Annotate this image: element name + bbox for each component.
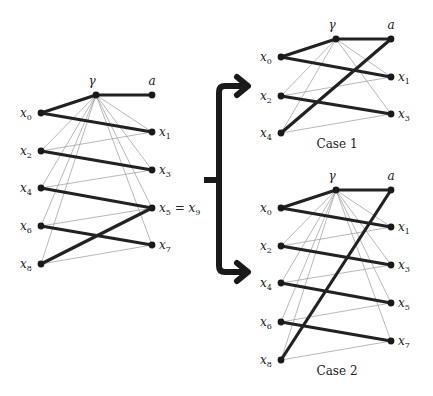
node-label-x8: x8 [20, 257, 32, 273]
thin-edge-x7-x8 [281, 341, 391, 360]
node-label-a: a [387, 169, 394, 183]
node-label-x4: x4 [20, 181, 32, 197]
node-label-x0: x0 [260, 201, 272, 217]
node-x8 [38, 261, 45, 268]
graphs-group: γax0x1x2x3x4x5 = x9x6x7x8γax0x1x2x3x4Cas… [20, 18, 410, 378]
node-x0 [278, 54, 285, 61]
node-x7 [149, 242, 156, 249]
node-x4 [278, 280, 285, 287]
thin-edge-x1-x2 [281, 227, 391, 246]
graph-case1: γax0x1x2x3x4Case 1 [260, 18, 410, 151]
thick-edge-x8-x5 [41, 208, 152, 264]
thick-edge-x4-x5 [281, 283, 391, 303]
caption-case2: Case 2 [316, 364, 357, 378]
graph-original: γax0x1x2x3x4x5 = x9x6x7x8 [20, 74, 200, 273]
thin-edge-gamma-x7 [336, 190, 391, 341]
thick-edge-x8-a [281, 190, 391, 360]
node-label-gamma: γ [328, 169, 336, 183]
node-x0 [278, 205, 285, 212]
node-x8 [278, 357, 285, 364]
node-x6 [38, 223, 45, 230]
node-x1 [149, 129, 156, 136]
node-a [388, 187, 395, 194]
node-label-a: a [148, 74, 155, 88]
node-x3 [388, 111, 395, 118]
node-x5 [149, 205, 156, 212]
thin-edge-x5-x6 [281, 303, 391, 322]
node-label-x1: x1 [398, 220, 410, 236]
thick-edge-x0-x1 [41, 113, 152, 132]
node-label-gamma: γ [88, 74, 96, 88]
node-label-x3: x3 [398, 258, 410, 274]
node-label-x5: x5 = x9 [159, 201, 200, 217]
node-x0 [38, 110, 45, 117]
thick-edge-x4-x5 [41, 188, 152, 208]
thin-edge-x3-x4 [41, 170, 152, 188]
thin-edge-gamma-x5 [96, 95, 152, 208]
branching-brace-arrow [204, 77, 248, 281]
caption-case1: Case 1 [316, 137, 357, 151]
node-gamma [93, 92, 100, 99]
node-gamma [333, 36, 340, 43]
node-label-x3: x3 [159, 163, 171, 179]
thick-edge-x6-x7 [281, 322, 391, 341]
thick-edge-gamma-x0 [281, 190, 336, 208]
node-label-x4: x4 [260, 276, 272, 292]
node-a [388, 36, 395, 43]
node-label-x1: x1 [159, 125, 171, 141]
graph-case2: γax0x1x2x3x4x5x6x7x8Case 2 [260, 169, 410, 378]
node-label-x8: x8 [260, 353, 272, 369]
node-label-x1: x1 [398, 70, 410, 86]
diagram-canvas: γax0x1x2x3x4x5 = x9x6x7x8γax0x1x2x3x4Cas… [0, 0, 433, 396]
node-label-x0: x0 [260, 50, 272, 66]
node-label-x6: x6 [20, 219, 32, 235]
node-label-x2: x2 [260, 239, 272, 255]
node-label-x7: x7 [398, 334, 410, 350]
node-label-a: a [387, 18, 394, 32]
node-x2 [278, 243, 285, 250]
node-label-gamma: γ [328, 18, 336, 32]
node-label-x7: x7 [159, 238, 171, 254]
thin-edge-gamma-x5 [336, 190, 391, 303]
node-label-x5: x5 [398, 296, 410, 312]
node-x2 [278, 93, 285, 100]
thick-edge-x0-x1 [281, 57, 391, 77]
node-x1 [388, 74, 395, 81]
node-x7 [388, 338, 395, 345]
node-label-x4: x4 [260, 126, 272, 142]
node-label-x2: x2 [260, 89, 272, 105]
node-x4 [278, 130, 285, 137]
node-label-x2: x2 [20, 144, 32, 160]
thin-edge-gamma-x3 [96, 95, 152, 170]
node-x3 [388, 262, 395, 269]
brace-spine [219, 86, 244, 272]
node-x4 [38, 185, 45, 192]
node-gamma [333, 187, 340, 194]
node-x5 [388, 300, 395, 307]
thick-edge-gamma-x0 [41, 95, 96, 113]
node-x6 [278, 319, 285, 326]
node-label-x3: x3 [398, 107, 410, 123]
node-x2 [38, 148, 45, 155]
node-x1 [388, 224, 395, 231]
node-x3 [149, 167, 156, 174]
node-a [149, 92, 156, 99]
node-label-x0: x0 [20, 106, 32, 122]
node-label-x6: x6 [260, 315, 272, 331]
